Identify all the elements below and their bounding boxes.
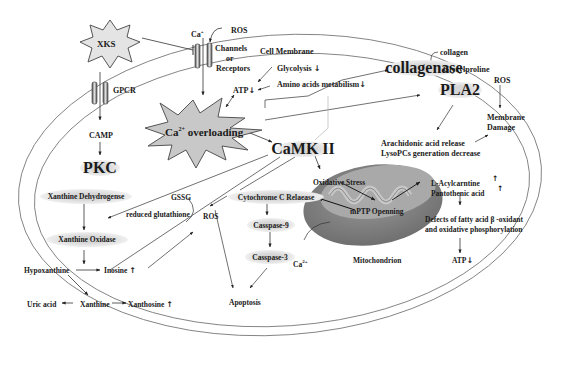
receptors-label: Receptors (216, 64, 250, 73)
pantothenic-acid-label: Pantothenic acid (431, 189, 485, 198)
defects-label-1: Defects of fatty acid β -oxidant (425, 215, 523, 224)
calcium-ion-label: Ca+ (191, 27, 204, 39)
xks-label: XKS (97, 40, 116, 49)
amino-acids-label: Amino acids metabilism↓ (277, 80, 366, 89)
membrane-damage-label-2: Damage (487, 123, 515, 132)
pla2-node: PLA2 (438, 82, 482, 98)
hypoxanthine-label: Hypoxanthine (24, 266, 69, 275)
mitochondrion-icon (298, 156, 448, 255)
ros-membrane-label: ROS (231, 26, 247, 35)
up-arrow-pantothenic: ↑ (497, 184, 503, 193)
caspase-3-node: Casspase-3 (245, 250, 295, 264)
glycylproline-label: Glycylproline (443, 65, 490, 74)
camp-label: CAMP (89, 131, 113, 140)
defects-label-2: and oxidative phosphorylation (425, 225, 523, 234)
reduced-glutathione-label: reduced glutathione (126, 210, 190, 219)
or-label: or (226, 54, 234, 63)
pkc-node: PKC (80, 160, 120, 176)
cell-membrane-label: Cell Membrane (260, 47, 314, 56)
inhibition-line (142, 38, 193, 50)
cytochrome-c-node: Cytochrome C Relaease (228, 190, 324, 204)
ros-pla2-label: ROS (494, 76, 510, 85)
acylcarnitine-label: L-Acylcarntine (431, 179, 480, 188)
oxidative-stress-label: Oxidative Stress (313, 178, 365, 187)
xanthine-oxidase-node: Xanthine Oxidase (46, 232, 128, 247)
gssg-label: GSSG (171, 193, 191, 202)
atp-mito-label: ATP↓ (452, 256, 473, 265)
calcium-mito-label: Ca2+ (293, 257, 308, 269)
membrane-damage-label-1: Membrane (487, 113, 525, 122)
collagen-label: collagen (440, 48, 468, 57)
uric-acid-label: Uric acid (27, 300, 56, 309)
ros-center-label: ROS (203, 212, 218, 221)
atp-top-label: ATP↓ (233, 86, 255, 95)
xanthosine-label: Xanthosine ↑ (128, 300, 173, 309)
xanthine-dehydrogenase-node: Xanthine Dehydrogense (40, 189, 132, 204)
gpcr-label: GPCR (113, 86, 136, 95)
apoptosis-label: Apoptosis (229, 298, 261, 307)
ca-overloading-label: Ca2+ overloading (165, 125, 243, 137)
channels-label: Channels (215, 44, 247, 53)
glycolysis-label: Glycolysis ↓ (277, 64, 320, 73)
arachidonic-label: Arachidonic acid release (381, 139, 465, 148)
caspase-9-node: Casspase-9 (247, 218, 295, 232)
inosine-label: Inosine ↑ (104, 266, 136, 275)
camk-ii-node: CaMK II (276, 141, 330, 157)
lysopcs-label: LysoPCs generation decrease (381, 149, 480, 158)
up-arrow-acylcarnitine: ↑ (492, 174, 498, 183)
mitochondrion-label: Mitochondrion (353, 256, 401, 265)
xanthine-label: Xanthine (80, 300, 110, 309)
mptp-opening-label: mPTP Openning (350, 207, 404, 216)
